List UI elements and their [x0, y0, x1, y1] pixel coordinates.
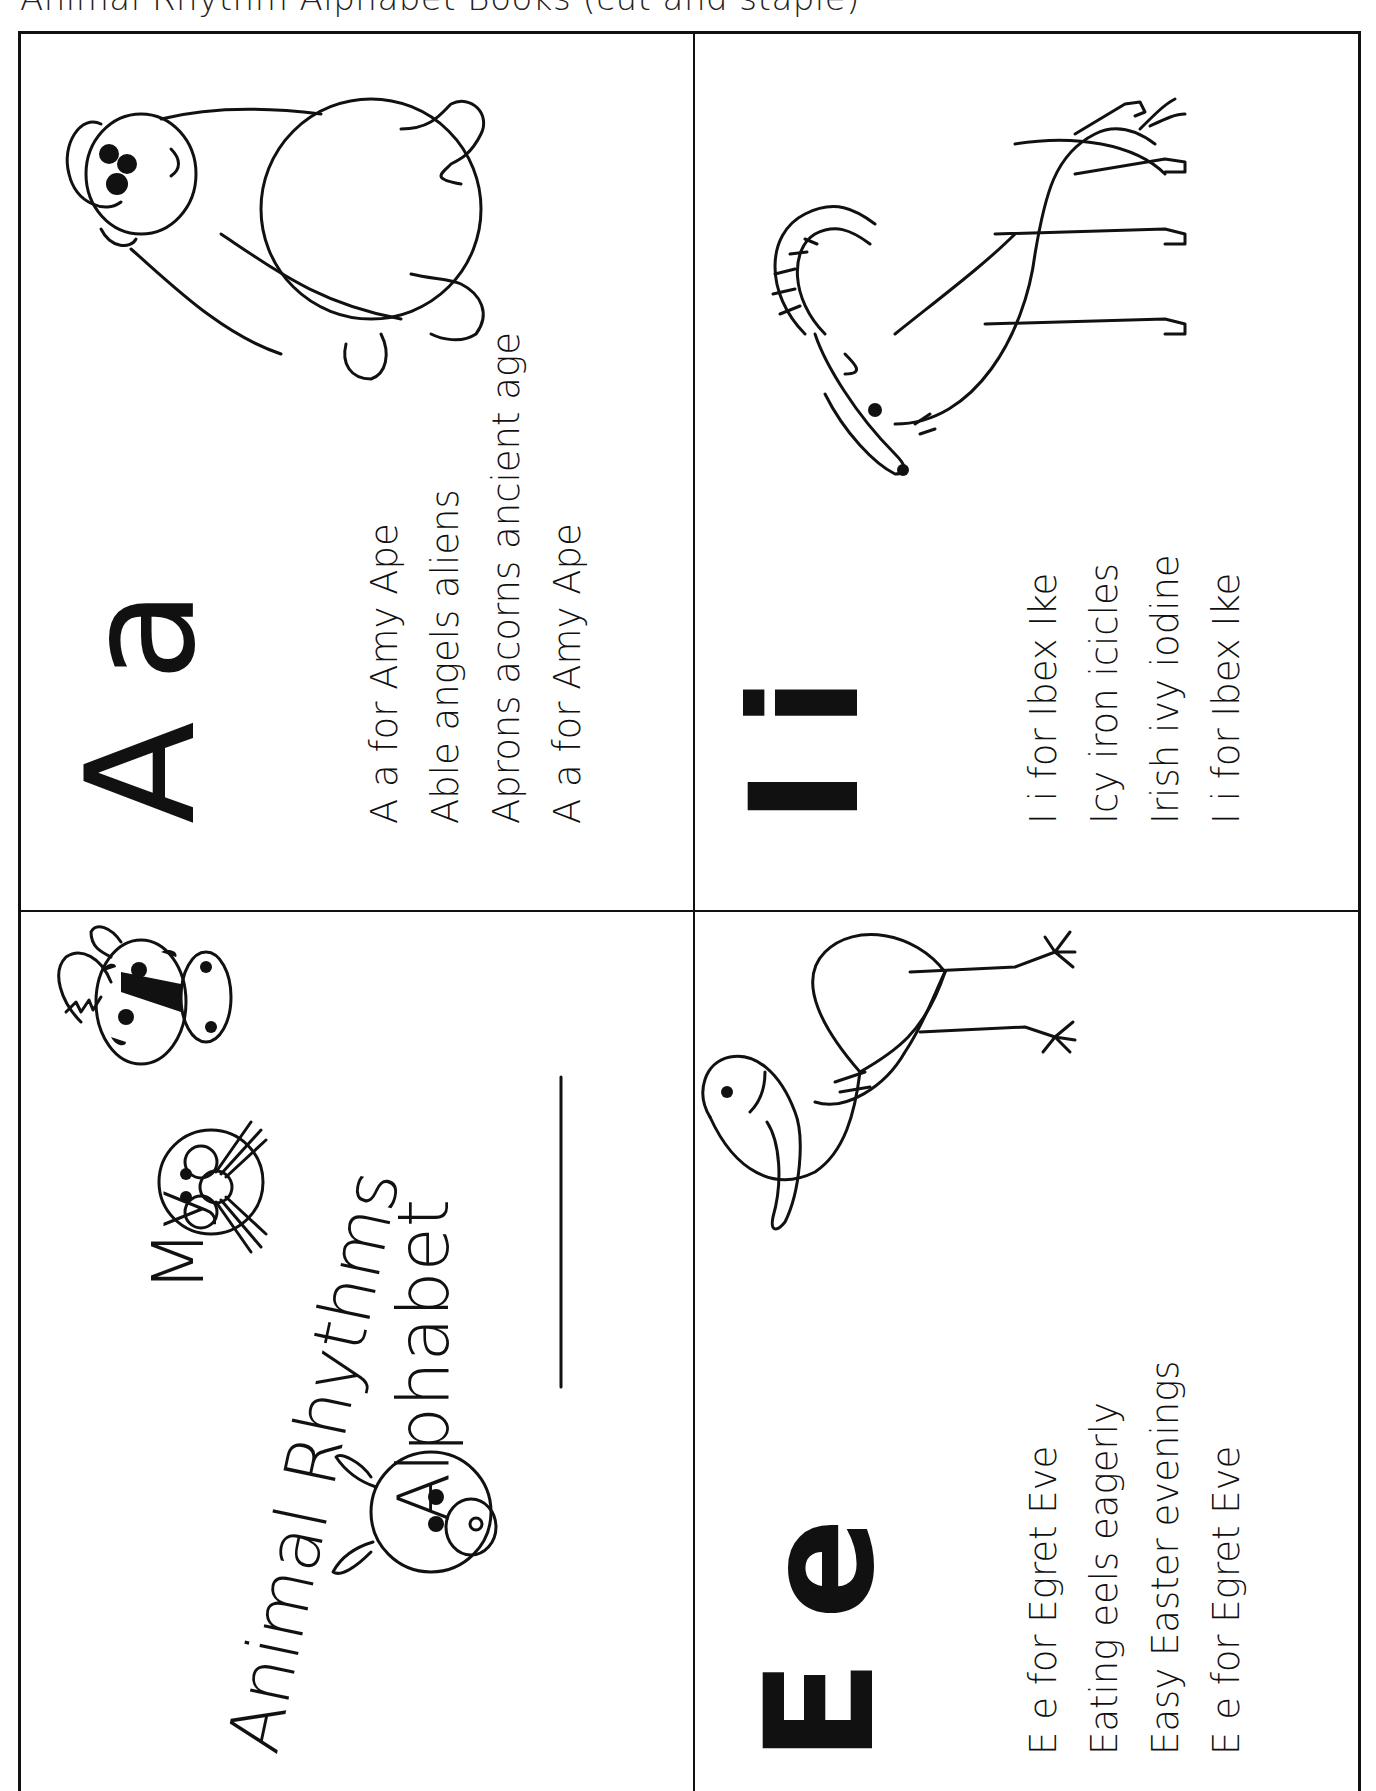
- page-i-rhyme: I i for Ibex Ike Icy iron icicles Irish …: [1013, 554, 1257, 824]
- rhyme-line: Icy iron icicles: [1074, 554, 1135, 824]
- rhyme-line: Easy Easter evenings: [1135, 1360, 1196, 1755]
- rhyme-line: Able angels aliens: [415, 332, 476, 824]
- page-i-letter-lower: i: [718, 677, 892, 728]
- rhyme-line: I i for Ibex Ike: [1013, 554, 1074, 824]
- page-i-letter-upper: I: [718, 768, 892, 824]
- cover-title-line1: My: [136, 1187, 220, 1292]
- cover-panel: My Animal Rhythms Alphabet: [21, 912, 693, 1772]
- rhyme-line: E e for Egret Eve: [1013, 1360, 1074, 1755]
- page-a-rhyme: A a for Amy Ape Able angels aliens Apron…: [354, 332, 598, 824]
- rhyme-line: I i for Ibex Ike: [1196, 554, 1257, 824]
- page-e-panel: Ee E e for Egret Eve Eating eels eagerly…: [695, 912, 1358, 1772]
- worksheet-header: Animal Rhythm Alphabet Books (cut and st…: [20, 0, 860, 18]
- page-a-big-letters: Aa: [66, 589, 216, 824]
- page-a-letter-lower: a: [54, 589, 228, 681]
- cover-title-line3: Alphabet: [381, 1199, 465, 1522]
- page-e-letter-lower: e: [733, 1518, 907, 1620]
- page-i-big-letters: Ii: [730, 677, 880, 824]
- page-e-rhyme: E e for Egret Eve Eating eels eagerly Ea…: [1013, 1360, 1257, 1755]
- rhyme-line: A a for Amy Ape: [354, 332, 415, 824]
- page-i-panel: Ii I i for Ibex Ike Icy iron icicles Iri…: [695, 34, 1358, 910]
- rhyme-line: Irish ivy iodine: [1135, 554, 1196, 824]
- page-a-letter-upper: A: [54, 721, 228, 824]
- rhyme-line: Aprons acorns ancient age: [476, 332, 537, 824]
- rhyme-line: A a for Amy Ape: [537, 332, 598, 824]
- rhyme-line: E e for Egret Eve: [1196, 1360, 1257, 1755]
- rhyme-line: Eating eels eagerly: [1074, 1360, 1135, 1755]
- zebra-icon: [59, 927, 231, 1064]
- page-e-big-letters: Ee: [745, 1518, 895, 1762]
- page-a-panel: Aa A a for Amy Ape Able angels aliens Ap…: [21, 34, 693, 910]
- page-e-letter-upper: E: [733, 1660, 907, 1762]
